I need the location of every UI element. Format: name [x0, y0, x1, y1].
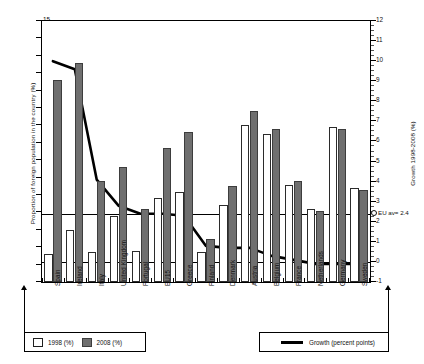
- x-tick: [42, 278, 43, 282]
- legend-leader-left-vertical: [24, 290, 25, 332]
- y-right-minor-tickmark: [371, 90, 374, 91]
- y-right-tick-label: 6: [376, 136, 402, 143]
- y-right-minor-tickmark: [371, 196, 374, 197]
- y-right-minor-tickmark: [371, 85, 374, 86]
- y-right-minor-tickmark: [371, 236, 374, 237]
- y-right-tick-label: 7: [376, 116, 402, 123]
- y-right-minor-tickmark: [371, 156, 374, 157]
- x-tick: [195, 278, 196, 282]
- x-label-denmark: Denmark: [229, 260, 236, 286]
- y-right-minor-tickmark: [371, 206, 374, 207]
- x-tick: [304, 278, 305, 282]
- legend-growth: Growth (percent points): [259, 332, 389, 352]
- y-right-minor-tickmark: [371, 166, 374, 167]
- y-right-tick-label: 5: [376, 157, 402, 164]
- bar-2008-greece: [184, 132, 192, 282]
- chart-figure: Proportion of foreign population in the …: [0, 0, 424, 364]
- bar-1998-united-kingdom: [110, 216, 118, 282]
- x-tick: [261, 278, 262, 282]
- legend-bars: 1998 (%) 2008 (%): [24, 332, 146, 352]
- x-tick: [283, 278, 284, 282]
- bar-1998-belgium: [263, 134, 271, 282]
- x-tick: [173, 278, 174, 282]
- y-right-minor-tickmark: [371, 151, 374, 152]
- x-tick: [64, 278, 65, 282]
- y-right-minor-tickmark: [371, 145, 374, 146]
- x-tick: [108, 278, 109, 282]
- y-right-minor-tickmark: [371, 226, 374, 227]
- y-right-minor-tickmark: [371, 271, 374, 272]
- x-tick: [151, 278, 152, 282]
- y-right-tick-label: 3: [376, 197, 402, 204]
- y-right-minor-tickmark: [371, 130, 374, 131]
- legend-label-growth: Growth (percent points): [309, 339, 375, 346]
- bar-1998-spain: [44, 254, 52, 282]
- bar-2008-eu15: [163, 148, 171, 282]
- bar-1998-germany: [329, 127, 337, 282]
- y-right-minor-tickmark: [371, 135, 374, 136]
- bar-1998-eu15: [154, 198, 162, 282]
- bar-2008-italy: [97, 181, 105, 282]
- y-right-minor-tickmark: [371, 266, 374, 267]
- y-right-minor-tickmark: [371, 50, 374, 51]
- y-right-tick-label: 2: [376, 217, 402, 224]
- x-label-spain: Spain: [54, 269, 61, 286]
- y-right-tick-label: 10: [376, 56, 402, 63]
- y-right-minor-tickmark: [371, 95, 374, 96]
- x-tick: [348, 278, 349, 282]
- x-label-sweden: Sweden: [361, 263, 368, 286]
- y-right-minor-tickmark: [371, 171, 374, 172]
- plot-inner: [42, 21, 370, 282]
- y-right-minor-tickmark: [371, 256, 374, 257]
- eu-average-marker: [371, 210, 377, 216]
- bar-1998-ireland: [66, 230, 74, 282]
- y-right-minor-tickmark: [371, 75, 374, 76]
- x-label-france: France: [295, 266, 302, 286]
- legend-leader-right-vertical: [388, 290, 389, 332]
- legend-item-growth: Growth (percent points): [281, 339, 375, 346]
- x-label-netherlands: Netherlands: [317, 251, 324, 286]
- bar-1998-denmark: [219, 205, 227, 282]
- x-tick: [239, 278, 240, 282]
- y-right-minor-tickmark: [371, 115, 374, 116]
- legend-swatch-growth-line: [281, 341, 303, 344]
- x-tick: [217, 278, 218, 282]
- y-right-tick-label: 8: [376, 96, 402, 103]
- y-right-tick-label: 0: [376, 257, 402, 264]
- y-right-minor-tickmark: [371, 30, 374, 31]
- y-right-tick-label: 9: [376, 76, 402, 83]
- x-label-belgium: Belgium: [273, 263, 280, 286]
- y-right-tick-label: 1: [376, 237, 402, 244]
- x-tick: [129, 278, 130, 282]
- y-right-tick-label: -1: [376, 277, 402, 284]
- y-right-tick-label: 4: [376, 177, 402, 184]
- y-right-tick-label: 12: [376, 16, 402, 23]
- bar-1998-portugal: [132, 251, 140, 282]
- y-right-minor-tickmark: [371, 65, 374, 66]
- x-label-austria: Austria: [251, 266, 258, 286]
- x-label-germany: Germany: [339, 259, 346, 286]
- y-right-minor-tickmark: [371, 186, 374, 187]
- y-right-minor-tickmark: [371, 251, 374, 252]
- bar-2008-ireland: [75, 63, 83, 282]
- y-right-minor-tickmark: [371, 176, 374, 177]
- legend-label-1998: 1998 (%): [48, 339, 74, 346]
- x-label-italy: Italy: [98, 274, 105, 286]
- y-right-minor-tickmark: [371, 246, 374, 247]
- legend-swatch-2008: [82, 338, 92, 347]
- y-right-minor-tickmark: [371, 55, 374, 56]
- legend-item-1998: 1998 (%): [33, 338, 74, 347]
- x-label-united-kingdom: United Kingdom: [120, 240, 127, 286]
- y-right-minor-tickmark: [371, 35, 374, 36]
- bar-1998-netherlands: [307, 209, 315, 282]
- bar-1998-finland: [197, 252, 205, 282]
- x-label-ireland: Ireland: [76, 266, 83, 286]
- y-right-minor-tickmark: [371, 45, 374, 46]
- x-label-portugal: Portugal: [142, 262, 149, 286]
- y-right-minor-tickmark: [371, 231, 374, 232]
- bar-1998-austria: [241, 125, 249, 282]
- x-tick: [86, 278, 87, 282]
- x-label-eu15: EU15: [164, 270, 171, 286]
- eu-average-label: EU av= 2.4: [378, 209, 409, 216]
- legend-leader-right-arrow: [385, 285, 391, 290]
